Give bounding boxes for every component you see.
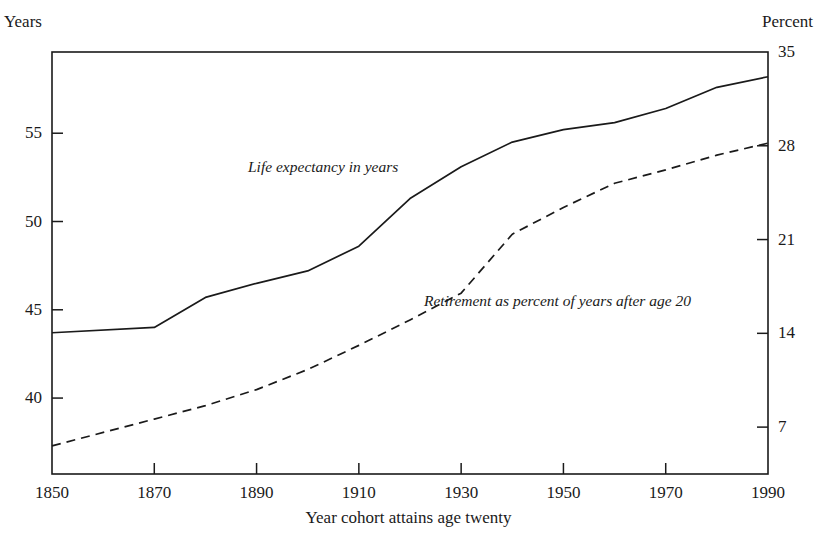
x-axis-ticks	[154, 463, 665, 474]
right-tick-label: 7	[778, 418, 787, 435]
x-tick-label: 1850	[7, 484, 97, 501]
x-tick-label: 1870	[109, 484, 199, 501]
series-label-retirement-percent: Retirement as percent of years after age…	[424, 292, 691, 310]
x-tick-label: 1890	[212, 484, 302, 501]
plot-frame	[52, 52, 768, 474]
left-tick-label: 40	[0, 389, 42, 406]
chart-figure: Years Percent 40455055 714212835 1850187…	[0, 0, 817, 542]
left-axis-ticks	[52, 133, 63, 398]
x-tick-label: 1910	[314, 484, 404, 501]
right-tick-label: 21	[778, 231, 795, 248]
right-axis-title: Percent	[762, 12, 813, 32]
right-tick-label: 28	[778, 137, 795, 154]
left-tick-label: 45	[0, 301, 42, 318]
left-tick-label: 50	[0, 213, 42, 230]
series-label-life-expectancy: Life expectancy in years	[248, 158, 398, 176]
right-tick-label: 14	[778, 324, 795, 341]
plot-area	[0, 0, 817, 542]
left-axis-title: Years	[4, 12, 42, 32]
right-tick-label: 35	[778, 43, 795, 60]
x-tick-label: 1950	[518, 484, 608, 501]
x-axis-title: Year cohort attains age twenty	[0, 508, 817, 528]
x-tick-label: 1990	[723, 484, 813, 501]
x-tick-label: 1930	[416, 484, 506, 501]
x-tick-label: 1970	[621, 484, 711, 501]
right-axis-ticks	[757, 146, 768, 427]
left-tick-label: 55	[0, 124, 42, 141]
